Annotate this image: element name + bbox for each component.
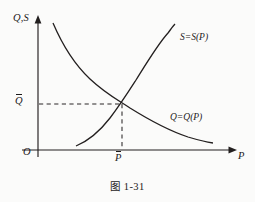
x-axis-label: P [238, 151, 244, 162]
demand-curve-label: Q=Q(P) [170, 113, 202, 123]
p-bar-glyph: P [115, 152, 121, 164]
equilibrium-price-label: P [115, 152, 121, 164]
q-bar-glyph: Q [15, 95, 23, 107]
y-axis-arrowhead [35, 15, 42, 24]
equilibrium-quantity-label: Q [15, 95, 23, 107]
supply-curve [76, 24, 175, 146]
y-axis-label: Q,S [13, 13, 29, 24]
figure-supply-demand: Q,S P O Q P S=S(P) Q=Q(P) 图 1-31 [0, 0, 255, 202]
x-axis-arrowhead [229, 147, 238, 154]
plot-canvas [0, 0, 255, 202]
figure-caption: 图 1-31 [0, 178, 255, 193]
supply-curve-label: S=S(P) [180, 33, 208, 43]
origin-label: O [23, 147, 31, 158]
